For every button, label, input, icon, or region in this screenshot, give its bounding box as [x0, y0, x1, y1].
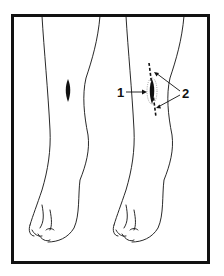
left-leg [29, 16, 100, 242]
label-1: 1 [117, 86, 124, 99]
label-2: 2 [182, 87, 189, 100]
right-leg [113, 16, 184, 242]
leg-illustration [0, 0, 224, 276]
wound-left [66, 79, 71, 102]
arrows-2 [154, 72, 180, 109]
arrow-1 [126, 90, 147, 95]
